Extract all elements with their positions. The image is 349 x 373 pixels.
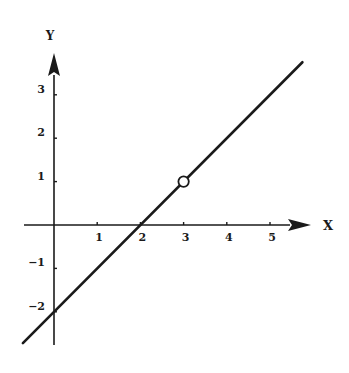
annotations xyxy=(178,176,188,186)
x-tick-label: 4 xyxy=(225,231,233,244)
y-axis-arrow-icon xyxy=(48,53,60,76)
x-axis-label: X xyxy=(323,218,334,233)
x-tick-label: 2 xyxy=(139,231,147,244)
tick-labels: 12345321−1−2 xyxy=(28,83,276,313)
y-tick-label: 3 xyxy=(37,83,45,96)
y-axis-label: Y xyxy=(45,29,55,43)
open-circle-point xyxy=(178,176,188,186)
series-line xyxy=(23,62,303,343)
y-tick-label: 1 xyxy=(37,170,45,183)
y-tick-label: −1 xyxy=(28,256,45,269)
y-tick-label: −2 xyxy=(28,300,45,313)
y-tick-label: 2 xyxy=(37,126,45,139)
x-axis-arrow-icon xyxy=(288,219,311,231)
x-tick-label: 3 xyxy=(182,231,190,244)
data-series xyxy=(23,62,303,343)
x-tick-label: 1 xyxy=(95,231,103,244)
line-graph: 12345321−1−2 X Y xyxy=(0,0,349,373)
x-tick-label: 5 xyxy=(268,231,276,244)
